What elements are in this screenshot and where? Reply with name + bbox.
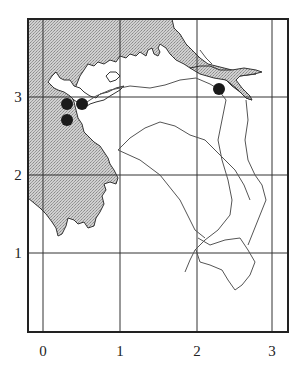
small-lake — [106, 72, 120, 82]
x-tick-label: 0 — [39, 343, 47, 359]
inland-channel — [190, 66, 262, 100]
point-marker — [213, 83, 225, 95]
y-tick-label: 3 — [14, 89, 22, 105]
sample-points — [61, 83, 225, 126]
x-tick-label: 1 — [116, 343, 124, 359]
shaded-region — [28, 19, 256, 236]
x-tick-label: 3 — [268, 343, 276, 359]
point-marker — [61, 98, 73, 110]
y-tick-label: 2 — [14, 167, 22, 183]
point-marker — [61, 114, 73, 126]
map-figure: 0 1 2 3 3 2 1 — [0, 0, 302, 375]
y-axis-labels: 3 2 1 — [14, 89, 22, 261]
x-axis-labels: 0 1 2 3 — [39, 343, 276, 359]
point-marker — [76, 98, 88, 110]
x-tick-label: 2 — [193, 343, 201, 359]
y-tick-label: 1 — [14, 245, 22, 261]
